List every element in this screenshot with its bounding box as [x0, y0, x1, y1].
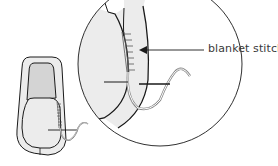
shoe-upper-shaded [27, 63, 56, 100]
shoe-insole [22, 98, 61, 148]
small-shoe-overview [17, 57, 88, 155]
diagram-svg [0, 0, 278, 166]
band-divider [124, 8, 125, 36]
diagram-stage: blanket stitch [0, 0, 278, 166]
blanket-stitch-label: blanket stitch [208, 42, 278, 55]
magnified-detail-circle [70, 0, 242, 146]
